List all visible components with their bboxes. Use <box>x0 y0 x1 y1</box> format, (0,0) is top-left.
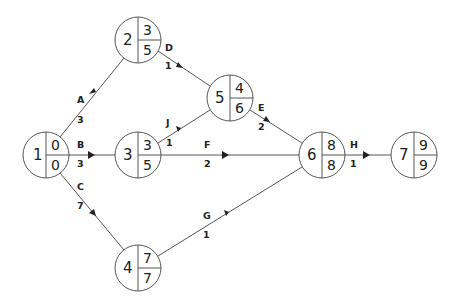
node-6-late: 8 <box>327 157 336 173</box>
label-B-name: B <box>77 139 84 150</box>
node-6-early: 8 <box>327 137 336 153</box>
node-1-late: 0 <box>51 157 60 173</box>
node-3-early: 3 <box>143 137 152 153</box>
label-J-duration: 1 <box>166 137 173 148</box>
edge-G <box>158 167 302 256</box>
label-D-duration: 1 <box>165 60 172 71</box>
node-5-early: 4 <box>235 80 244 96</box>
node-7-late: 9 <box>419 157 428 173</box>
label-F-name: F <box>204 139 211 150</box>
label-E-duration: 2 <box>258 121 265 132</box>
label-A-duration: 3 <box>77 114 84 125</box>
node-4-id: 4 <box>123 259 133 277</box>
label-C-duration: 7 <box>77 200 84 211</box>
label-G-name: G <box>203 210 211 221</box>
node-7: 7 9 9 <box>391 132 437 178</box>
label-G-duration: 1 <box>203 229 210 240</box>
node-7-id: 7 <box>399 146 409 164</box>
label-H-name: H <box>350 139 358 150</box>
node-6-id: 6 <box>307 146 317 164</box>
node-3: 3 3 5 <box>115 132 161 178</box>
arrow-B-icon <box>88 151 95 159</box>
node-5: 5 4 6 <box>207 75 253 121</box>
label-A-name: A <box>77 94 85 105</box>
node-1: 1 0 0 <box>23 132 69 178</box>
node-2-id: 2 <box>123 31 133 49</box>
node-4-late: 7 <box>143 270 152 286</box>
node-5-late: 6 <box>235 100 244 116</box>
network-diagram: A 3 B 3 C 7 D 1 J 1 F 2 E 2 G 1 H 1 1 0 … <box>0 0 456 306</box>
label-E-name: E <box>258 102 265 113</box>
node-7-early: 9 <box>419 137 428 153</box>
edge-A <box>60 58 124 137</box>
node-3-id: 3 <box>123 146 133 164</box>
label-H-duration: 1 <box>350 158 357 169</box>
nodes: 1 0 0 2 3 5 3 3 5 4 7 7 <box>23 17 437 291</box>
label-F-duration: 2 <box>204 158 211 169</box>
arrow-C-icon <box>89 209 96 216</box>
node-1-id: 1 <box>33 146 43 164</box>
arrow-D-icon <box>176 62 183 68</box>
arrow-H-icon <box>363 151 370 159</box>
label-J-name: J <box>165 117 170 128</box>
node-4-early: 7 <box>143 250 152 266</box>
node-2-late: 5 <box>143 42 152 58</box>
label-B-duration: 3 <box>77 158 84 169</box>
node-6: 6 8 8 <box>299 132 345 178</box>
node-3-late: 5 <box>143 157 152 173</box>
node-1-early: 0 <box>51 137 60 153</box>
node-2: 2 3 5 <box>115 17 161 63</box>
node-4: 4 7 7 <box>115 245 161 291</box>
arrow-F-icon <box>222 151 229 159</box>
node-5-id: 5 <box>215 89 225 107</box>
label-C-name: C <box>77 181 84 192</box>
node-2-early: 3 <box>143 22 152 38</box>
label-D-name: D <box>165 42 173 53</box>
